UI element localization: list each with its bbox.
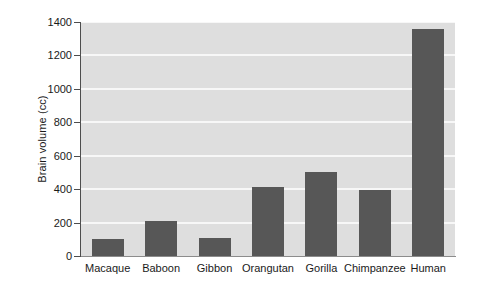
y-axis-tick-label: 0: [38, 251, 72, 262]
bar: [199, 238, 231, 256]
brain-volume-bar-chart: Brain volume (cc) 0200400600800100012001…: [0, 0, 477, 293]
y-axis-tick-mark: [74, 22, 81, 23]
bar: [305, 172, 337, 256]
y-axis-tick-labels: 0200400600800100012001400: [38, 0, 72, 293]
bar: [252, 187, 284, 256]
y-axis-tick-mark: [74, 89, 81, 90]
y-axis-tick-label: 1000: [38, 84, 72, 95]
y-axis-tick-label: 200: [38, 218, 72, 229]
y-axis-tick-label: 1400: [38, 17, 72, 28]
x-axis-category-labels: MacaqueBaboonGibbonOrangutanGorillaChimp…: [81, 261, 455, 279]
y-axis-tick-mark: [74, 122, 81, 123]
y-axis-tick-mark: [74, 223, 81, 224]
y-axis-tick-mark: [74, 189, 81, 190]
bar: [92, 239, 124, 256]
y-axis-tick-label: 1200: [38, 50, 72, 61]
y-axis-tick-mark: [74, 55, 81, 56]
bar: [412, 29, 444, 256]
y-axis-tick-mark: [74, 256, 81, 257]
plot-area: [81, 22, 455, 256]
y-axis-tick-label: 400: [38, 184, 72, 195]
bar: [145, 221, 177, 256]
bar: [359, 190, 391, 256]
bar-series: [81, 22, 455, 256]
x-axis-tick-label: Human: [396, 261, 461, 275]
x-axis-line: [80, 256, 456, 257]
y-axis-tick-label: 800: [38, 117, 72, 128]
y-axis-tick-mark: [74, 156, 81, 157]
y-axis-tick-label: 600: [38, 151, 72, 162]
